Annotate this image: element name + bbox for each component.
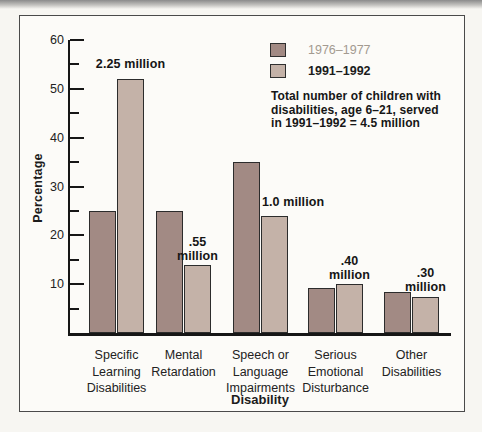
minor-tick-15 xyxy=(70,259,79,261)
note-line: in 1991–1992 = 4.5 million xyxy=(271,117,441,131)
minor-tick-5 xyxy=(70,308,79,310)
bar-value-label-line: million xyxy=(153,250,243,264)
y-tick-label-40: 40 xyxy=(32,131,64,145)
bar-1976–1977-group3 xyxy=(308,288,335,333)
bar-1991–1992-group3 xyxy=(336,284,363,333)
bar-1991–1992-group4 xyxy=(412,297,439,333)
scan-edge-artifact xyxy=(0,0,482,9)
bar-value-label-line: .30 xyxy=(381,267,471,281)
y-tick-label-10: 10 xyxy=(32,277,64,291)
bar-value-label-group0: 2.25 million xyxy=(86,58,176,72)
y-tick-label-30: 30 xyxy=(32,180,64,194)
major-tick-10 xyxy=(70,283,84,285)
bar-1991–1992-group0 xyxy=(117,79,144,333)
figure-frame: Percentage 1976–1977 1991–1992 Total num… xyxy=(19,15,465,412)
bar-1991–1992-group2 xyxy=(261,216,288,333)
legend-label-1991-1992: 1991–1992 xyxy=(308,64,371,78)
minor-tick-35 xyxy=(70,161,79,163)
category-label-4: OtherDisabilities xyxy=(362,347,462,380)
legend-swatch-1976-1977 xyxy=(270,43,286,57)
category-label-line: Other xyxy=(362,347,462,364)
y-tick-label-20: 20 xyxy=(32,228,64,242)
bar-value-label-line: .55 xyxy=(153,236,243,250)
legend-label-1976-1977: 1976–1977 xyxy=(308,43,371,57)
major-tick-20 xyxy=(70,234,84,236)
bar-1976–1977-group0 xyxy=(89,211,116,333)
major-tick-40 xyxy=(70,137,84,139)
minor-tick-25 xyxy=(70,210,79,212)
bar-value-label-line: million xyxy=(381,281,471,295)
legend: 1976–1977 1991–1992 xyxy=(270,42,371,84)
category-label-line: Disabilities xyxy=(67,380,167,397)
y-tick-label-50: 50 xyxy=(32,82,64,96)
major-tick-50 xyxy=(70,88,84,90)
major-tick-30 xyxy=(70,186,84,188)
note-line: disabilities, age 6–21, served xyxy=(271,104,441,118)
bar-value-label-group1: .55million xyxy=(153,236,243,263)
bar-1976–1977-group4 xyxy=(384,292,411,333)
bar-value-label-group2: 1.0 million xyxy=(262,196,324,210)
bar-1976–1977-group1 xyxy=(156,211,183,333)
bar-value-label-group4: .30million xyxy=(381,267,471,294)
minor-tick-55 xyxy=(70,63,79,65)
legend-item-1976-1977: 1976–1977 xyxy=(270,42,371,57)
legend-swatch-1991-1992 xyxy=(270,64,286,78)
y-tick-label-60: 60 xyxy=(32,33,64,47)
legend-item-1991-1992: 1991–1992 xyxy=(270,63,371,78)
total-note: Total number of children with disabiliti… xyxy=(271,90,441,131)
bar-value-label-line: 1.0 million xyxy=(262,196,324,210)
category-label-line: Disturbance xyxy=(286,380,386,397)
category-label-line: Disabilities xyxy=(362,364,462,381)
y-axis-line xyxy=(68,40,70,335)
minor-tick-45 xyxy=(70,112,79,114)
major-tick-60 xyxy=(70,39,84,41)
bar-value-label-line: 2.25 million xyxy=(86,58,176,72)
x-axis-line xyxy=(68,333,451,336)
page: { "page": { "background": "#f7f6f2" }, "… xyxy=(0,0,482,432)
bar-1991–1992-group1 xyxy=(184,265,211,333)
note-line: Total number of children with xyxy=(271,90,441,104)
